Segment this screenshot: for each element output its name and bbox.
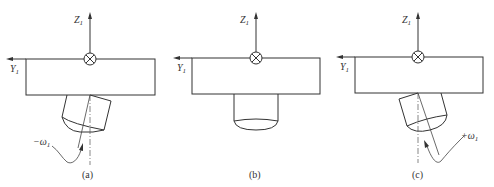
rotation-label: −ω1 (33, 136, 50, 149)
x-axis-into-page-icon (412, 51, 424, 63)
figure-canvas: Z1 Y1 −ω1 (a) Z1 (0, 0, 494, 187)
z-axis-label: Z1 (74, 14, 83, 27)
x-axis-into-page-icon (250, 52, 262, 64)
y-axis-arrowhead-icon (173, 56, 180, 60)
panel-caption: (b) (249, 169, 261, 181)
y-axis-arrowhead-icon (336, 55, 343, 59)
rotation-label: +ω1 (461, 130, 478, 143)
rotation-arc (427, 136, 464, 162)
panel-b: Z1 Y1 (b) (173, 12, 320, 181)
y-axis-arrowhead-icon (6, 57, 13, 61)
y-axis-label: Y1 (177, 62, 186, 75)
z-axis-arrowhead-icon (416, 12, 420, 19)
z-axis-arrowhead-icon (254, 12, 258, 19)
y-axis-label: Y1 (10, 63, 19, 76)
x-axis-into-page-icon (84, 53, 96, 65)
tool-axis-line (78, 95, 90, 148)
z-axis-label: Z1 (240, 14, 249, 27)
y-axis-label: Y1 (340, 61, 349, 74)
panel-caption: (c) (412, 169, 423, 181)
panel-a: Z1 Y1 −ω1 (a) (6, 12, 155, 181)
rotation-arrowhead-icon (79, 143, 83, 151)
z-axis-arrowhead-icon (88, 12, 92, 19)
tilted-spindle-left (62, 95, 111, 132)
rotation-arrowhead-icon (424, 140, 429, 148)
tilted-spindle-right (399, 93, 447, 131)
z-axis-label: Z1 (402, 14, 411, 27)
panel-caption: (a) (82, 169, 93, 181)
rotation-arc (52, 146, 81, 163)
panel-c: Z1 Y1 +ω1 (c) (336, 12, 483, 181)
vertical-spindle (234, 94, 278, 130)
